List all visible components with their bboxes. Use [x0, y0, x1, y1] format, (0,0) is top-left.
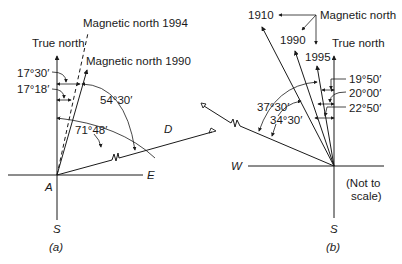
figure-a: True north Magnetic north 1994 Magnetic …	[8, 17, 216, 253]
south-label-a: S	[53, 223, 61, 235]
caption-b: (b)	[326, 241, 340, 253]
point-d-label: D	[164, 123, 172, 135]
legend-arrow-1990	[302, 15, 316, 30]
not-to-scale-note-2: scale)	[351, 190, 382, 202]
angle-arrow-20-00	[330, 92, 346, 102]
angle-arrow-17-30	[52, 72, 66, 82]
true-north-label-a: True north	[32, 37, 85, 49]
angle-label-54-30: 54°30′	[100, 94, 132, 106]
caption-a: (a)	[49, 241, 63, 253]
angle-arrow-17-18	[52, 89, 64, 98]
east-label: E	[147, 169, 155, 181]
angle-arrow-19-50	[331, 79, 346, 89]
magnetic-north-label: Magnetic north	[320, 9, 396, 21]
angle-label-17-18: 17°18′	[17, 83, 49, 95]
magnetic-north-1994-label: Magnetic north 1994	[83, 17, 188, 29]
angle-label-19-50: 19°50′	[349, 73, 381, 85]
magnetic-north-1994-line	[57, 33, 88, 175]
bearing-diagrams: True north Magnetic north 1994 Magnetic …	[0, 0, 402, 264]
angle-label-37-30: 37°30′	[257, 101, 289, 113]
angle-label-71-48: 71°48′	[75, 124, 107, 136]
year-1990-label: 1990	[280, 34, 306, 46]
magnetic-north-1910-line	[262, 27, 334, 166]
angle-label-20-00: 20°00′	[349, 87, 381, 99]
magnetic-north-1990-label: Magnetic north 1990	[86, 55, 191, 67]
figure-b: Magnetic north 1910 1990 1995 True north…	[201, 9, 396, 253]
magnetic-north-1995-line	[317, 66, 334, 166]
year-1995-label: 1995	[305, 51, 331, 63]
angle-arrow-22-50	[325, 107, 346, 116]
line-a-to-d	[57, 132, 212, 175]
magnetic-north-1990-line-b	[295, 51, 334, 166]
year-1910-label: 1910	[248, 9, 274, 21]
not-to-scale-note-1: (Not to	[346, 177, 381, 189]
angle-label-22-50: 22°50′	[349, 102, 381, 114]
west-label: W	[231, 160, 243, 172]
true-north-label-b: True north	[332, 37, 385, 49]
angle-label-34-30: 34°30′	[270, 114, 302, 126]
station-d-triangle-icon	[209, 128, 216, 133]
origin-a-label: A	[44, 181, 53, 193]
south-label-b: S	[330, 223, 338, 235]
angle-label-17-30: 17°30′	[17, 67, 49, 79]
line-west-station	[204, 106, 334, 166]
